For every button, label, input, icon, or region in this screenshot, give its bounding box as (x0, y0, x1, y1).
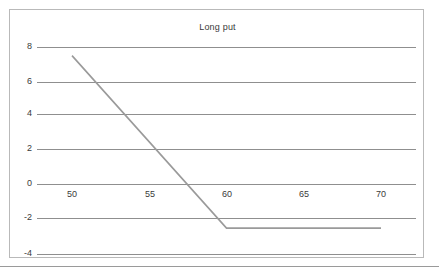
series-long-put-payoff (10, 10, 425, 259)
chart-frame: Long put 8 6 4 2 0 -2 -4 50 55 60 65 70 (9, 9, 424, 258)
plot-area: 8 6 4 2 0 -2 -4 50 55 60 65 70 (10, 10, 425, 259)
chart-screenshot: Long put 8 6 4 2 0 -2 -4 50 55 60 65 70 (0, 0, 439, 275)
bottom-divider (0, 266, 439, 267)
